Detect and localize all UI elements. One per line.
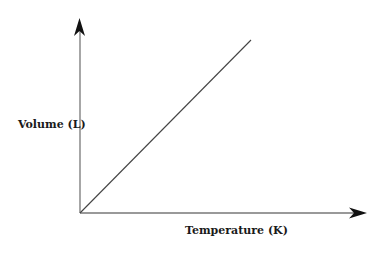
chart-container: Volume (L) Temperature (K)	[0, 0, 387, 253]
data-line	[80, 40, 251, 213]
x-axis-label: Temperature (K)	[185, 224, 288, 237]
y-axis-label: Volume (L)	[18, 118, 86, 131]
